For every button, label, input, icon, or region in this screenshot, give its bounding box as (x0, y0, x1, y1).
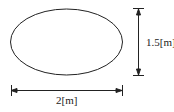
width-label: 2[m] (56, 95, 77, 106)
height-dimension-line (133, 9, 144, 76)
ellipse-diagram (0, 0, 174, 112)
height-label: 1.5[m] (146, 37, 174, 48)
ellipse-shape (11, 9, 123, 75)
